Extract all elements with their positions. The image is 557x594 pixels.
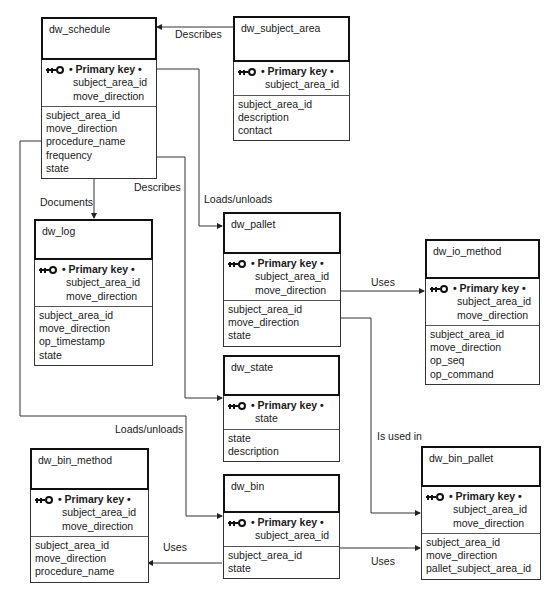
entity-dw-io-method[interactable]: dw_io_method • Primary key • subject_are… [425,239,540,385]
connector-pallet-bin-pallet [341,318,420,513]
primary-key-section: • Primary key • subject_area_id [224,513,339,547]
label-is-used-in: Is used in [377,430,422,442]
entity-dw-state[interactable]: dw_state • Primary key • state state des… [223,355,340,462]
attribute-list: subject_area_id move_direction op_timest… [35,307,152,365]
attribute: subject_area_id [46,109,152,122]
attribute: move_direction [46,122,152,135]
entity-dw-bin-method[interactable]: dw_bin_method • Primary key • subject_ar… [30,448,149,583]
attribute: state [228,329,336,342]
primary-key-section: • Primary key • state [224,396,339,430]
pk-field: subject_area_id [46,76,152,89]
attribute: contact [238,124,345,137]
key-icon [426,493,444,501]
key-icon [228,519,246,527]
attribute: pallet_subject_area_id [426,562,536,575]
pk-field: subject_area_id [426,503,536,516]
pk-label: • Primary key • [453,282,526,295]
attribute: state [228,432,335,445]
entity-title: dw_bin [223,474,340,513]
attribute: op_command [430,368,535,381]
key-icon [228,260,246,268]
pk-label: • Primary key • [251,257,324,270]
entity-title: dw_log [34,219,153,260]
label-uses-bin-pallet: Uses [371,555,395,567]
attribute: move_direction [39,322,148,335]
primary-key-section: • Primary key • subject_area_id move_dir… [31,490,148,537]
attribute: subject_area_id [35,539,144,552]
pk-field: state [228,412,335,425]
attribute-list: state description [224,430,339,462]
attribute-list: subject_area_id state [224,547,339,579]
entity-dw-schedule[interactable]: dw_schedule • Primary key • subject_area… [41,17,157,179]
pk-label: • Primary key • [58,493,131,506]
label-documents: Documents [40,196,93,208]
attribute: op_timestamp [39,335,148,348]
pk-label: • Primary key • [62,263,135,276]
pk-field: subject_area_id [238,78,345,91]
attribute-list: subject_area_id move_direction state [224,301,340,346]
attribute: description [228,445,335,458]
pk-field: move_direction [35,520,144,533]
pk-label: • Primary key • [449,490,522,503]
label-uses-io-method: Uses [371,276,395,288]
pk-field: subject_area_id [39,276,148,289]
label-uses-bin-method: Uses [163,541,187,553]
entity-title: dw_state [223,355,340,396]
entity-dw-bin-pallet[interactable]: dw_bin_pallet • Primary key • subject_ar… [421,446,541,580]
attribute: move_direction [228,316,336,329]
pk-label: • Primary key • [69,63,142,76]
entity-title: dw_bin_method [30,448,149,490]
key-icon [39,266,57,274]
pk-field: subject_area_id [228,529,335,542]
key-icon [46,66,64,74]
attribute-list: subject_area_id move_direction pallet_su… [422,534,540,579]
pk-field: subject_area_id [430,295,535,308]
attribute: move_direction [430,341,535,354]
pk-label: • Primary key • [261,65,334,78]
entity-title: dw_bin_pallet [421,446,541,487]
attribute: move_direction [426,549,536,562]
entity-dw-log[interactable]: dw_log • Primary key • subject_area_id m… [34,219,153,366]
attribute-list: subject_area_id move_direction procedure… [42,107,156,178]
attribute: subject_area_id [228,549,335,562]
entity-title: dw_subject_area [233,16,350,62]
primary-key-section: • Primary key • subject_area_id move_dir… [35,260,152,307]
attribute: move_direction [35,552,144,565]
pk-field: move_direction [46,90,152,103]
key-icon [430,285,448,293]
attribute: description [238,111,345,124]
pk-field: move_direction [39,290,148,303]
primary-key-section: • Primary key • subject_area_id [234,62,349,96]
pk-field: move_direction [430,309,535,322]
entity-title: dw_pallet [223,212,341,254]
attribute: state [46,162,152,175]
attribute: procedure_name [35,565,144,578]
attribute: subject_area_id [426,536,536,549]
entity-title: dw_schedule [41,17,157,60]
attribute: subject_area_id [39,309,148,322]
label-loads-unloads-pallet: Loads/unloads [204,193,272,205]
primary-key-section: • Primary key • subject_area_id move_dir… [422,487,540,534]
pk-field: move_direction [426,517,536,530]
pk-field: move_direction [228,284,336,297]
pk-field: subject_area_id [35,506,144,519]
pk-field: subject_area_id [228,270,336,283]
entity-title: dw_io_method [425,239,540,279]
attribute-list: subject_area_id move_direction procedure… [31,537,148,582]
key-icon [228,402,246,410]
pk-label: • Primary key • [251,516,324,529]
label-loads-unloads-bin: Loads/unloads [115,423,183,435]
entity-dw-pallet[interactable]: dw_pallet • Primary key • subject_area_i… [223,212,341,347]
attribute-list: subject_area_id description contact [234,96,349,141]
entity-dw-subject-area[interactable]: dw_subject_area • Primary key • subject_… [233,16,350,141]
primary-key-section: • Primary key • subject_area_id move_dir… [224,254,340,301]
attribute: state [39,349,148,362]
attribute: subject_area_id [238,98,345,111]
pk-label: • Primary key • [251,399,324,412]
label-describes-state: Describes [134,181,181,193]
attribute: frequency [46,149,152,162]
key-icon [238,68,256,76]
key-icon [35,496,53,504]
entity-dw-bin[interactable]: dw_bin • Primary key • subject_area_id s… [223,474,340,579]
label-describes-subject-area: Describes [175,28,222,40]
